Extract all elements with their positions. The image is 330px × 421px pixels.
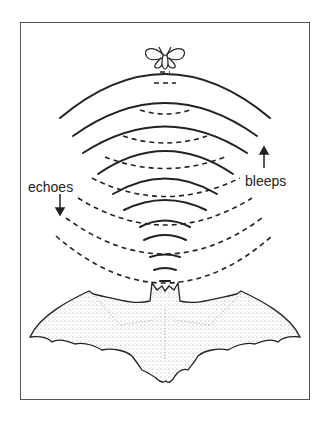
echoes-arrow [56,194,64,215]
bleeps-arrow [260,147,268,168]
bat-icon [30,283,300,382]
bleeps-label: bleeps [245,174,286,188]
moth-icon [145,47,184,69]
bleep-waves [60,74,270,281]
echoes-label: echoes [28,180,73,194]
echolocation-diagram [0,0,330,421]
